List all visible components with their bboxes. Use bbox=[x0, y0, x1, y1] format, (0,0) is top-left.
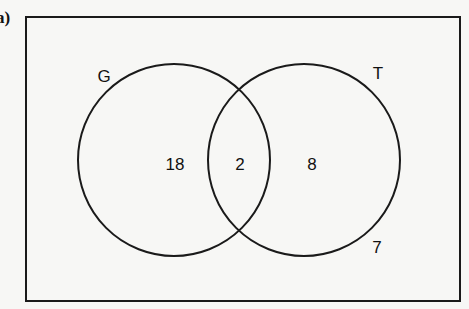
set-t-label: T bbox=[373, 64, 383, 83]
set-g-label: G bbox=[97, 67, 110, 86]
region-t-only-value: 8 bbox=[307, 155, 316, 174]
region-neither-value: 7 bbox=[372, 238, 381, 257]
venn-diagram: G T 18 2 8 7 bbox=[0, 0, 469, 309]
region-intersection-value: 2 bbox=[235, 155, 244, 174]
region-g-only-value: 18 bbox=[166, 155, 185, 174]
